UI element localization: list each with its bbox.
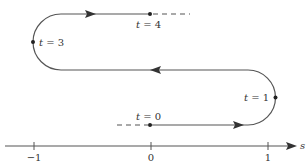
tick-label-neg1: −1 [27, 152, 42, 163]
dot-t4 [148, 12, 152, 16]
label-t3: t = 3 [39, 37, 64, 48]
motion-diagram: t = 0 t = 1 t = 3 t = 4 −1 0 1 s [0, 0, 308, 166]
tick-label-0: 0 [148, 152, 154, 163]
tick-label-1: 1 [265, 152, 271, 163]
dot-t1 [274, 96, 278, 100]
dot-t3 [31, 40, 35, 44]
label-t0: t = 0 [136, 111, 161, 122]
axis-label-s: s [300, 140, 305, 151]
s-axis: −1 0 1 s [5, 140, 305, 163]
label-t1: t = 1 [244, 92, 269, 103]
dot-t0 [148, 123, 152, 127]
label-t4: t = 4 [136, 19, 161, 30]
